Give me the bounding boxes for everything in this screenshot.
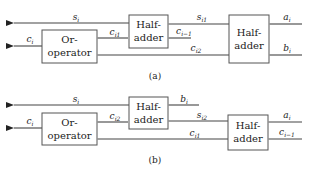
label-b-c-i1: ci1 (190, 128, 201, 139)
label-b-s-out: si (73, 94, 80, 105)
label-a-c-prev: ci−1 (176, 26, 192, 37)
label-a-c-i1: ci1 (110, 27, 121, 38)
half-adder-label-line1: Half- (136, 101, 161, 112)
half-adder-middle-block-b: Half- adder (129, 97, 168, 129)
label-b-c-out: ci (27, 116, 34, 127)
half-adder-label-line1: Half- (136, 19, 161, 30)
or-operator-block-a: Or- operator (42, 30, 97, 63)
label-b-b-in: bi (180, 94, 188, 105)
half-adder-label-line2: adder (234, 40, 264, 51)
half-adder-label-line2: adder (134, 32, 164, 43)
label-b-c-prev: ci−1 (279, 127, 295, 138)
half-adder-label-line1: Half- (237, 27, 262, 38)
half-adder-right-block-a: Half- adder (229, 15, 269, 63)
full-adder-diagrams: Or- operator Half- adder Half- adder si … (0, 0, 312, 174)
label-a-s-i1: si1 (197, 12, 207, 23)
label-a-c-i2: ci2 (191, 43, 202, 54)
or-operator-label-line1: Or- (61, 34, 77, 45)
label-b-a-in: ai (283, 110, 290, 121)
half-adder-label-line2: adder (233, 133, 263, 144)
half-adder-middle-block-a: Half- adder (129, 15, 168, 48)
half-adder-label-line2: adder (134, 114, 164, 125)
label-a-a-in: ai (283, 12, 290, 23)
or-operator-label-line1: Or- (61, 117, 77, 128)
label-b-s-i2: si2 (197, 110, 208, 121)
label-a-s-out: si (73, 12, 80, 23)
label-a-b-in: bi (283, 43, 291, 54)
or-operator-label-line2: operator (48, 47, 92, 58)
label-a-c-out: ci (27, 34, 34, 45)
or-operator-block-b: Or- operator (42, 113, 97, 145)
or-operator-label-line2: operator (48, 130, 92, 141)
diagram-a: Or- operator Half- adder Half- adder si … (14, 12, 302, 81)
half-adder-label-line1: Half- (236, 120, 261, 131)
diagram-b: Or- operator Half- adder Half- adder si … (14, 94, 302, 165)
half-adder-right-block-b: Half- adder (228, 115, 268, 150)
caption-a: (a) (149, 71, 161, 81)
caption-b: (b) (149, 155, 162, 165)
label-b-c-i2: ci2 (110, 111, 121, 122)
